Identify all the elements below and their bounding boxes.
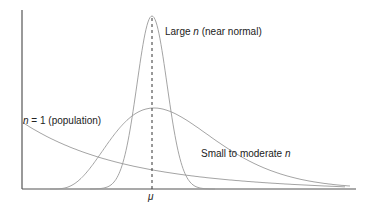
label-large-n: Large n (near normal) <box>165 26 262 37</box>
curve-population <box>22 122 345 187</box>
label-population: n = 1 (population) <box>23 115 101 126</box>
sampling-distribution-diagram: μ Large n (near normal) n = 1 (populatio… <box>0 0 374 209</box>
x-tick-label-mu: μ <box>147 191 154 202</box>
label-small-moderate-n: Small to moderate n <box>201 148 291 159</box>
